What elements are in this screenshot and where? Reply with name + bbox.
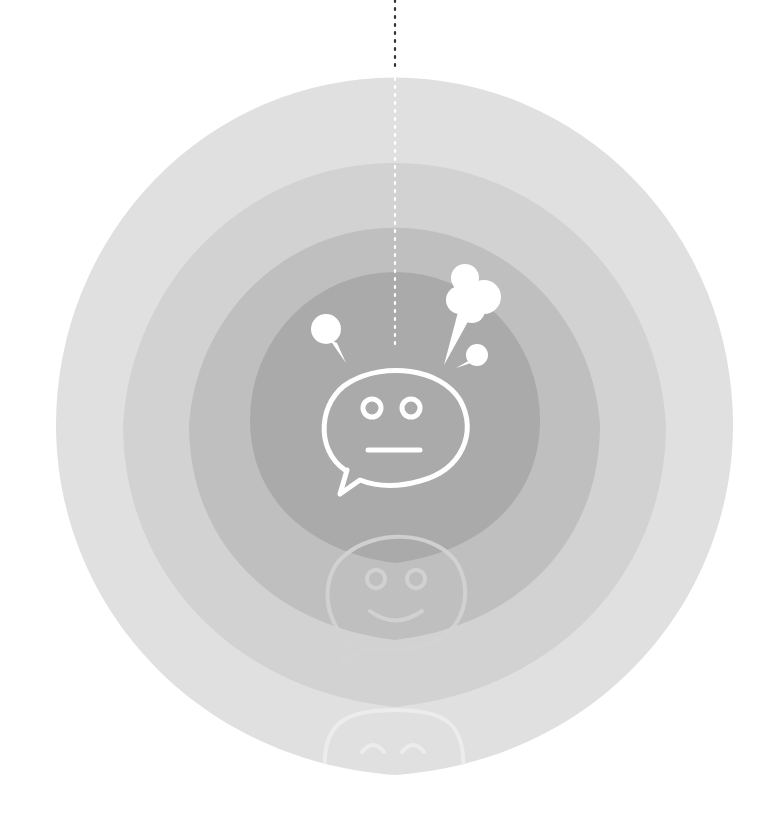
- ring-inner: [250, 272, 540, 563]
- concentric-emotion-illustration: [0, 0, 784, 820]
